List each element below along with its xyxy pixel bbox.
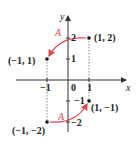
origin-label: 0 bbox=[71, 83, 76, 93]
transform-label-bottom: A bbox=[58, 112, 64, 122]
y-tick-neg2: −2 bbox=[71, 118, 82, 128]
x-tick-neg1: −1 bbox=[40, 83, 51, 93]
x-tick-1: 1 bbox=[87, 83, 92, 93]
point-1-2 bbox=[87, 36, 91, 40]
y-tick-2: 2 bbox=[71, 33, 76, 43]
y-axis-label: y bbox=[60, 12, 64, 22]
point-neg1-neg2 bbox=[45, 120, 49, 124]
y-tick-1: 1 bbox=[71, 54, 76, 64]
point-neg1-1 bbox=[45, 57, 49, 61]
point-label-neg1-1: (−1, 1) bbox=[8, 56, 35, 66]
y-tick-neg1: −1 bbox=[74, 96, 85, 106]
point-label-1-2: (1, 2) bbox=[94, 33, 116, 43]
point-label-neg1-neg2: (−1, −2) bbox=[12, 126, 45, 136]
transform-label-top: A bbox=[55, 28, 61, 38]
x-axis-label: x bbox=[126, 83, 130, 93]
point-label-1-neg1: (1, −1) bbox=[91, 103, 118, 113]
